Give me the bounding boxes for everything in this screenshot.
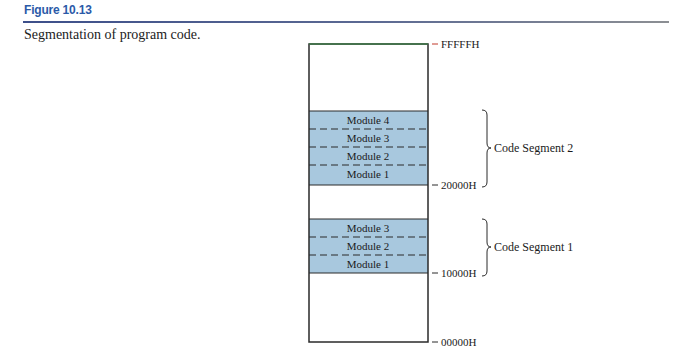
module-label: Module 2	[347, 240, 389, 252]
memory-map-diagram: Module 4 Module 3 Module 2 Module 1 Modu…	[0, 0, 686, 354]
brace-segment-2	[482, 110, 491, 187]
brace-segment-1	[482, 219, 491, 276]
module-label: Module 3	[347, 222, 390, 234]
address-bottom: 00000H	[441, 336, 477, 348]
segment-1-label: Code Segment 1	[494, 240, 573, 254]
segment-2-label: Code Segment 2	[494, 141, 573, 155]
module-label: Module 1	[347, 168, 389, 180]
module-label: Module 2	[347, 150, 389, 162]
module-label: Module 3	[347, 132, 390, 144]
module-label: Module 4	[347, 114, 390, 126]
address-top: FFFFFH	[441, 38, 480, 50]
module-label: Module 1	[347, 258, 389, 270]
address-segment-2-base: 20000H	[441, 179, 477, 191]
memory-box	[309, 44, 428, 342]
address-segment-1-base: 10000H	[441, 267, 477, 279]
